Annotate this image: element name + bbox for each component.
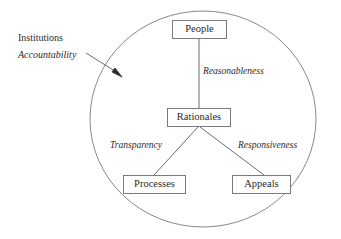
edge-label-transparency: Transparency [110,141,162,151]
diagram-canvas: Institutions Accountability People Ratio… [0,0,341,239]
connector-rationales-processes [154,127,198,175]
node-rationales-label: Rationales [177,112,221,123]
edge-label-reasonableness: Reasonableness [203,67,264,77]
node-people[interactable]: People [172,20,227,39]
node-people-label: People [185,24,214,35]
connector-rationales-appeals [200,127,264,175]
accountability-label: Accountability [18,50,76,60]
edge-label-responsiveness: Responsiveness [238,141,297,151]
node-appeals-label: Appeals [244,179,278,190]
institutions-label: Institutions [18,33,63,43]
node-processes[interactable]: Processes [123,175,186,194]
node-appeals[interactable]: Appeals [232,175,291,194]
institutions-pointer-arrowhead [112,68,122,77]
node-rationales[interactable]: Rationales [167,108,231,127]
node-processes-label: Processes [134,179,175,190]
